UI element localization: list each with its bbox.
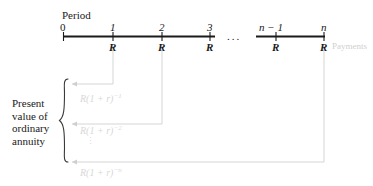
connector-period-1 [72,46,113,84]
tick-label-n: n [321,22,327,33]
formula-1-base: R(1 + r) [80,93,113,104]
payment-label-3: R [206,42,213,53]
connector-period-2 [72,46,162,124]
discount-formula-2: R(1 + r)−2 [80,125,122,136]
present-value-caption: Present value of ordinary annuity [12,97,49,147]
discount-formula-n: R(1 + r)−n [80,167,122,178]
formula-2-exponent: −2 [113,124,121,132]
arrowhead-1 [72,82,77,87]
discount-formula-1: R(1 + r)−1 [80,93,122,104]
tick-label-1: 1 [110,22,116,33]
tick-label-2: 2 [159,22,165,33]
payment-label-n-minus-1: R [272,42,279,53]
payment-label-1: R [109,42,116,53]
arrowhead-2 [72,122,77,127]
tick-label-0: 0 [60,22,66,33]
caption-line-2: value of [12,110,49,123]
caption-line-1: Present [12,97,49,110]
payments-caption: Payments [332,42,367,51]
vertical-ellipsis: ⋮ [86,140,95,143]
tick-label-n-minus-1: n − 1 [259,22,283,33]
formula-2-base: R(1 + r) [80,125,113,136]
arrowhead-3 [72,160,77,165]
present-value-brace [60,79,69,162]
formula-1-exponent: −1 [113,92,121,100]
annuity-timeline-diagram [0,0,373,186]
formula-n-base: R(1 + r) [80,167,113,178]
formula-n-exponent: −n [113,166,121,174]
period-title: Period [62,10,91,21]
timeline-break-ellipsis: ... [227,31,241,42]
caption-line-3: ordinary [12,122,49,135]
tick-label-3: 3 [207,22,213,33]
payment-label-2: R [158,42,165,53]
caption-line-4: annuity [12,135,49,148]
payment-label-n: R [320,42,327,53]
